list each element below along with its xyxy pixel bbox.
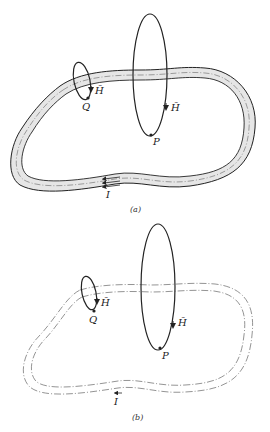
- figure-b: I Q H̄ P H̄ (b): [23, 224, 252, 422]
- diagram-canvas: I Q H̄ P H̄ (a) I Q H̄ P H̄ (b): [0, 0, 270, 432]
- point-p-label: P: [152, 136, 160, 147]
- field-loop-q-b: [79, 275, 100, 311]
- point-q: [86, 96, 89, 99]
- field-q-label-b: H̄: [100, 297, 110, 308]
- field-p-label: H̄: [170, 102, 180, 113]
- point-q-label-b: Q: [89, 314, 97, 325]
- caption-a: (a): [130, 205, 141, 214]
- caption-b: (b): [132, 413, 143, 422]
- point-q-label: Q: [82, 101, 90, 112]
- point-p-label-b: P: [161, 350, 169, 361]
- field-p-label-b: H̄: [177, 317, 187, 328]
- filament-inner: [31, 290, 244, 387]
- point-q-b: [92, 309, 95, 312]
- current-label-b: I: [113, 396, 119, 407]
- current-label: I: [105, 189, 111, 200]
- filament-outer: [23, 283, 252, 394]
- field-q-label: H̄: [94, 85, 104, 96]
- field-loop-p-b: [141, 224, 175, 350]
- figure-a: I Q H̄ P H̄ (a): [11, 14, 256, 214]
